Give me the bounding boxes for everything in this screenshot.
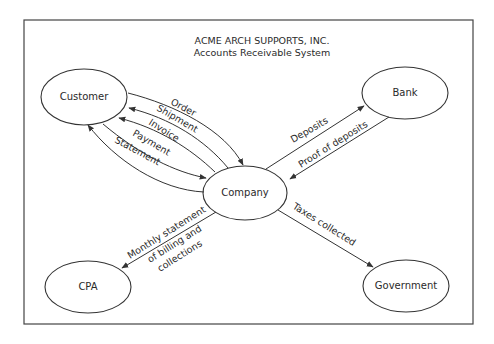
node-company-label: Company [221, 187, 269, 198]
node-customer-label: Customer [60, 91, 109, 102]
node-customer: Customer [41, 69, 127, 125]
accounts-receivable-diagram: ACME ARCH SUPPORTS, INC. Accounts Receiv… [0, 0, 494, 344]
diagram-subtitle: Accounts Receivable System [194, 47, 330, 58]
node-cpa: CPA [45, 261, 131, 313]
node-cpa-label: CPA [78, 281, 97, 292]
flow-deposits-label: Deposits [289, 115, 330, 145]
node-bank: Bank [362, 67, 448, 119]
diagram-title: ACME ARCH SUPPORTS, INC. [195, 35, 330, 46]
node-government-label: Government [375, 280, 437, 291]
node-bank-label: Bank [392, 87, 417, 98]
node-government: Government [363, 260, 449, 312]
